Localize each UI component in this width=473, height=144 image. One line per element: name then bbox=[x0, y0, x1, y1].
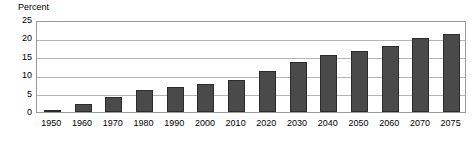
bar bbox=[136, 90, 153, 112]
y-axis-tick-label: 0 bbox=[2, 108, 32, 117]
bar bbox=[228, 80, 245, 112]
bar bbox=[351, 51, 368, 112]
y-axis-tick-label: 5 bbox=[2, 90, 32, 99]
x-axis-tick-label: 2060 bbox=[374, 118, 405, 129]
bar bbox=[105, 97, 122, 112]
bar bbox=[44, 110, 61, 112]
bar bbox=[75, 104, 92, 112]
bar bbox=[382, 46, 399, 112]
x-axis-tick-label: 1980 bbox=[128, 118, 159, 129]
gridline bbox=[37, 40, 465, 41]
y-axis-tick-label: 25 bbox=[2, 16, 32, 25]
x-axis-tick-label: 2050 bbox=[343, 118, 374, 129]
y-axis-tick-labels: 0510152025 bbox=[0, 0, 32, 144]
y-axis-tick-label: 15 bbox=[2, 53, 32, 62]
gridline bbox=[37, 58, 465, 59]
x-axis-tick-label: 1950 bbox=[36, 118, 67, 129]
gridline bbox=[37, 77, 465, 78]
x-axis-tick-label: 2070 bbox=[405, 118, 436, 129]
bar-chart: Percent 0510152025 195019601970198019902… bbox=[0, 0, 473, 144]
x-axis-tick-label: 2030 bbox=[282, 118, 313, 129]
x-axis-tick-label: 2010 bbox=[220, 118, 251, 129]
y-axis-tick-label: 20 bbox=[2, 34, 32, 43]
x-axis-tick-label: 2075 bbox=[435, 118, 466, 129]
x-axis-tick-label: 2000 bbox=[190, 118, 221, 129]
x-axis-tick-label: 1960 bbox=[67, 118, 98, 129]
x-axis-tick-labels: 1950196019701980199020002010202020302040… bbox=[36, 118, 466, 132]
x-axis-tick-label: 2020 bbox=[251, 118, 282, 129]
bar bbox=[443, 34, 460, 112]
bar bbox=[320, 55, 337, 112]
x-axis-tick-label: 1990 bbox=[159, 118, 190, 129]
bar bbox=[290, 62, 307, 112]
bar bbox=[167, 87, 184, 112]
bar bbox=[197, 84, 214, 112]
bar bbox=[412, 38, 429, 112]
gridline bbox=[37, 95, 465, 96]
y-axis-tick-label: 10 bbox=[2, 71, 32, 80]
plot-area bbox=[36, 21, 466, 113]
bar bbox=[259, 71, 276, 112]
x-axis-tick-label: 1970 bbox=[97, 118, 128, 129]
x-axis-tick-label: 2040 bbox=[312, 118, 343, 129]
